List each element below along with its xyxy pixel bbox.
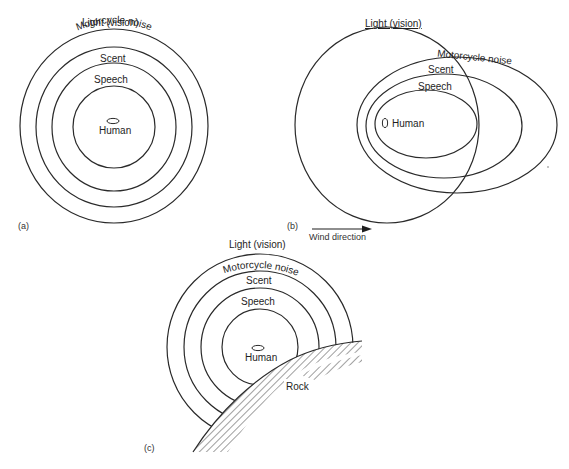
label-wind-direction: Wind direction (309, 232, 366, 242)
label-human: Human (245, 352, 277, 363)
human-marker-icon (382, 119, 387, 128)
label-rock: Rock (286, 381, 310, 392)
label-human: Human (99, 125, 131, 136)
label-light: Light (vision) (365, 18, 422, 29)
human-marker-icon (107, 118, 119, 123)
diagram-canvas: Light (vision) Motorcycle noise Scent Sp… (0, 0, 569, 469)
rock-hatching (193, 341, 362, 452)
panel-c: Rock Light (vision) Motorcycle noise Sce… (144, 239, 362, 453)
human-marker-icon (252, 345, 264, 350)
panel-caption-b: (b) (287, 221, 298, 231)
panel-b: Light (vision) Motorcycle noise Scent Sp… (287, 18, 557, 242)
label-scent: Scent (100, 53, 126, 64)
label-scent: Scent (428, 64, 454, 75)
label-light: Light (vision) (229, 239, 286, 250)
panel-a: Light (vision) Motorcycle noise Scent Sp… (18, 14, 208, 231)
label-speech: Speech (241, 296, 275, 307)
label-speech: Speech (94, 74, 128, 85)
panel-caption-c: (c) (144, 443, 155, 453)
zone-speech-ring (375, 90, 477, 158)
panel-caption-a: (a) (18, 221, 29, 231)
label-human: Human (392, 118, 424, 129)
stray-dot (547, 166, 549, 168)
label-scent: Scent (246, 275, 272, 286)
label-speech: Speech (418, 81, 452, 92)
